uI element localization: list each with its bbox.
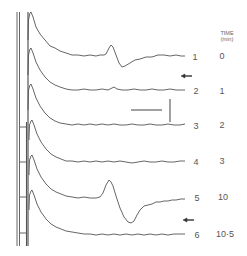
trace-label: 4 <box>193 158 198 167</box>
trace-label: 6 <box>194 231 199 240</box>
trace-2 <box>28 48 185 90</box>
trace-label: 2 <box>193 87 198 96</box>
trace-4 <box>29 120 185 163</box>
trace-time: 10 <box>218 193 228 202</box>
trace-label: 5 <box>194 194 199 203</box>
traces-plot <box>0 0 247 256</box>
trace-time: 0 <box>219 52 224 61</box>
trace-1 <box>28 12 185 67</box>
time-column-header: TIME (min) <box>220 30 233 43</box>
time-header-unit: (min) <box>220 36 233 42</box>
arrow-left-head-icon <box>181 74 185 78</box>
figure: TIME (min) 1 0 2 1 3 2 4 3 5 10 6 10·5 <box>0 0 247 256</box>
trace-label: 1 <box>192 53 197 62</box>
trace-6 <box>29 190 185 235</box>
trace-label: 3 <box>193 122 198 131</box>
trace-5 <box>29 155 185 223</box>
trace-time: 3 <box>219 157 224 166</box>
trace-time: 1 <box>219 87 224 96</box>
trace-time: 10·5 <box>216 230 234 239</box>
trace-time: 2 <box>219 121 224 130</box>
arrow-left-head-icon <box>183 218 187 222</box>
